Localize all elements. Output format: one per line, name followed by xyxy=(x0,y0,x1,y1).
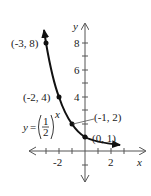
point-label: (-2, 4) xyxy=(23,91,51,104)
y-tick-label: 6 xyxy=(74,64,80,76)
leader-line xyxy=(73,119,94,124)
point-neg2-4 xyxy=(57,95,62,100)
y-tick-label: 4 xyxy=(74,91,80,103)
y-axis-label: y xyxy=(72,20,78,32)
function-curve xyxy=(46,43,120,145)
y-tick-label: 8 xyxy=(74,37,80,49)
point-label: (-3, 8) xyxy=(11,37,39,50)
function-label: y = 1 2 x xyxy=(22,108,60,139)
svg-text:y: y xyxy=(22,121,28,133)
svg-text:=: = xyxy=(30,121,36,133)
exponential-graph: -2 2 4 6 8 x y (-3, 8) (-2, 4) (-1, 2) (… xyxy=(0,0,151,196)
point-neg3-8 xyxy=(44,41,49,46)
x-axis-label: x xyxy=(136,156,142,168)
y-axis xyxy=(81,24,89,182)
x-tick-label: 2 xyxy=(108,156,114,168)
x-tick-label: -2 xyxy=(53,156,62,168)
svg-text:x: x xyxy=(54,108,60,120)
x-axis xyxy=(29,147,145,155)
point-0-1 xyxy=(83,135,88,140)
svg-text:2: 2 xyxy=(43,126,49,138)
point-label: (0, 1) xyxy=(92,132,116,145)
point-label: (-1, 2) xyxy=(94,111,122,124)
